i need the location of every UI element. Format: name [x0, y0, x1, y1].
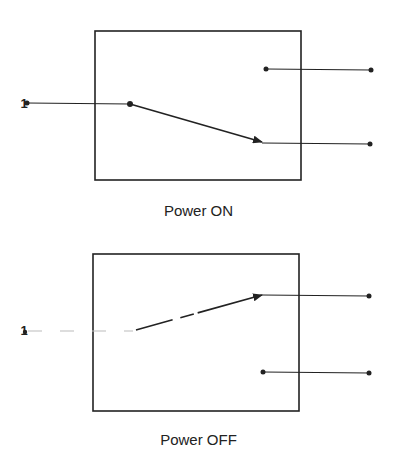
switch-box [93, 254, 299, 411]
top-output-dot [369, 68, 374, 73]
power-off-panel: 1 [20, 254, 371, 411]
switch-diagram: 1 1 [0, 0, 397, 468]
power-on-caption: Power ON [0, 202, 397, 219]
top-output-wire [266, 69, 371, 70]
bottom-output-dot [368, 142, 373, 147]
switch-arm [130, 104, 262, 142]
top-output-wire [262, 295, 369, 296]
top-output-dot [367, 294, 372, 299]
switch-box [95, 31, 301, 180]
bottom-output-wire [262, 143, 370, 144]
bottom-output-wire [263, 372, 369, 373]
power-on-panel: 1 [20, 31, 373, 180]
diagram-canvas: 1 1 Power ON Power OFF [0, 0, 397, 468]
bottom-output-dot [367, 371, 372, 376]
switch-arm [136, 295, 262, 330]
power-off-caption: Power OFF [0, 431, 397, 448]
input-terminal-dot [23, 330, 27, 334]
input-wire [27, 103, 130, 104]
